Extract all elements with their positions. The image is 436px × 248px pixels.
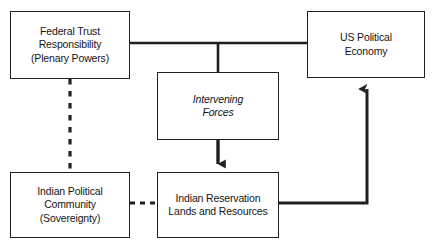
- node-federal-trust-responsibility-label: Federal Trust Responsibility (Plenary Po…: [28, 25, 112, 66]
- node-indian-reservation-lands-and-resources-label: Indian Reservation Lands and Resources: [165, 192, 270, 219]
- node-indian-political-community-label: Indian Political Community (Sovereignty): [34, 185, 105, 226]
- node-intervening-forces[interactable]: Intervening Forces: [157, 72, 279, 140]
- flow-diagram: Federal Trust Responsibility (Plenary Po…: [0, 0, 436, 248]
- node-federal-trust-responsibility[interactable]: Federal Trust Responsibility (Plenary Po…: [10, 11, 130, 79]
- node-us-political-economy-label: US Political Economy: [337, 31, 395, 58]
- node-indian-reservation-lands-and-resources[interactable]: Indian Reservation Lands and Resources: [157, 172, 279, 238]
- node-intervening-forces-label: Intervening Forces: [190, 93, 246, 120]
- node-us-political-economy[interactable]: US Political Economy: [307, 11, 425, 78]
- node-indian-political-community[interactable]: Indian Political Community (Sovereignty): [10, 172, 130, 238]
- connector-indian-reservation-to-us-political: [279, 89, 367, 203]
